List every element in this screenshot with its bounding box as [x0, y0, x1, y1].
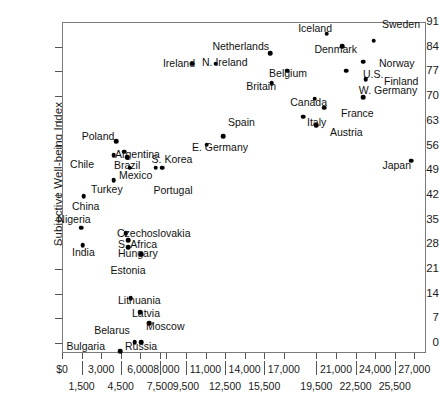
y-axis-tick-mark — [55, 269, 62, 270]
data-point-label: W. Germany — [359, 85, 417, 96]
plot-area: IcelandSwedenDenmarkNetherlandsNorwayN. … — [62, 22, 426, 353]
x-axis-tick-mark — [82, 353, 83, 359]
x-axis-label-separator — [225, 361, 226, 375]
x-axis-tick-label: 1,500 — [68, 381, 94, 392]
data-point[interactable] — [114, 139, 119, 144]
data-point-label: Moscow — [146, 321, 185, 332]
x-axis-tick-label: 27,000 — [398, 364, 430, 375]
data-point[interactable] — [118, 349, 123, 354]
data-point[interactable] — [82, 194, 87, 199]
data-point-label: Denmark — [314, 44, 357, 55]
x-axis-tick-label: $0 — [56, 364, 68, 375]
data-point-label: Mexico — [119, 170, 152, 181]
x-axis-tick-label: 24,000 — [359, 364, 391, 375]
x-axis-tick-mark — [414, 353, 415, 359]
x-axis-tick-mark — [375, 353, 376, 359]
data-point[interactable] — [221, 134, 226, 139]
data-point-label: Bulgaria — [66, 341, 105, 352]
x-axis-tick-label: 14,000 — [229, 364, 261, 375]
data-point-label: Chile — [70, 159, 94, 170]
x-axis-tick-mark — [316, 353, 317, 359]
data-point-label: Britain — [246, 81, 276, 92]
data-point[interactable] — [160, 165, 165, 170]
data-point-label: Portugal — [153, 185, 192, 196]
x-axis-tick-label: 21,000 — [320, 364, 352, 375]
y-axis-tick-mark — [55, 146, 62, 147]
y-axis-tick-mark — [55, 318, 62, 319]
data-point-label: Poland — [82, 131, 115, 142]
x-axis-tick-mark — [336, 353, 337, 359]
x-axis-label-separator — [82, 361, 83, 375]
data-point-label: Estonia — [110, 265, 145, 276]
y-axis-tick-mark — [55, 294, 62, 295]
data-point-label: Hungary — [118, 248, 158, 259]
scatter-plot-figure: Subjective Well-being Index 071421283542… — [0, 0, 439, 404]
data-point-label: Austria — [330, 127, 363, 138]
x-axis-tick-mark — [264, 353, 265, 359]
x-axis-label-separator — [121, 361, 122, 375]
x-axis-label-separator — [264, 361, 265, 375]
x-axis-tick-mark — [206, 353, 207, 359]
x-axis-label-separator — [186, 361, 187, 375]
data-point-label: Belgium — [269, 68, 307, 79]
x-axis-tick-label: 4,500 — [108, 381, 134, 392]
data-point[interactable] — [112, 178, 117, 183]
y-axis-tick-mark — [55, 244, 62, 245]
data-point[interactable] — [314, 123, 319, 128]
data-point[interactable] — [79, 225, 84, 230]
x-axis-tick-mark — [186, 353, 187, 359]
data-point-label: India — [72, 247, 95, 258]
data-point[interactable] — [344, 68, 349, 73]
data-point-label: Spain — [228, 117, 255, 128]
data-point-label: Netherlands — [212, 41, 269, 52]
x-axis-tick-label: 17,000 — [268, 364, 300, 375]
data-point-label: Lithuania — [118, 295, 161, 306]
data-point-label: E. Germany — [192, 142, 248, 153]
x-axis-label-separator — [160, 361, 161, 375]
y-axis-tick-mark — [55, 71, 62, 72]
data-point-label: France — [341, 108, 374, 119]
data-point-label: Czechoslovakia — [117, 228, 191, 239]
x-axis-tick-mark — [62, 353, 63, 359]
x-axis-tick-label: 3,000 — [88, 364, 114, 375]
data-point-label: Nigeria — [57, 214, 90, 225]
x-axis-label-separator — [316, 361, 317, 375]
data-point-label: Iceland — [298, 23, 332, 34]
y-axis-tick-mark — [55, 170, 62, 171]
data-point-label: China — [72, 201, 99, 212]
x-axis-tick-mark — [284, 353, 285, 359]
data-point[interactable] — [363, 77, 368, 82]
data-point-label: Turkey — [91, 184, 123, 195]
x-axis-tick-mark — [101, 353, 102, 359]
data-point[interactable] — [153, 165, 158, 170]
y-axis-tick-mark — [55, 121, 62, 122]
data-point-label: Norway — [379, 58, 415, 69]
x-axis-tick-mark — [160, 353, 161, 359]
x-axis-tick-label: 9,500 — [173, 381, 199, 392]
x-axis-tick-mark — [225, 353, 226, 359]
data-point-label: Russia — [125, 341, 157, 352]
x-axis-tick-label: 12,500 — [209, 381, 241, 392]
data-point[interactable] — [139, 252, 144, 257]
x-axis-tick-mark — [356, 353, 357, 359]
data-point[interactable] — [112, 153, 117, 158]
data-point[interactable] — [371, 38, 376, 43]
x-axis-tick-label: 7,500 — [147, 381, 173, 392]
x-axis-tick-mark — [395, 353, 396, 359]
data-point-label: Ireland — [163, 58, 195, 69]
data-point-label: Belarus — [94, 325, 130, 336]
y-axis-tick-mark — [55, 96, 62, 97]
x-axis-tick-label: 8,000 — [153, 364, 179, 375]
x-axis-tick-label: 15,500 — [248, 381, 280, 392]
x-axis-tick-label: 25,500 — [379, 381, 411, 392]
x-axis-label-separator — [356, 361, 357, 375]
x-axis-tick-mark — [140, 353, 141, 359]
x-axis-tick-label: 6,000 — [127, 364, 153, 375]
data-point[interactable] — [301, 114, 306, 119]
data-point[interactable] — [322, 105, 327, 110]
x-axis-tick-label: 22,500 — [339, 381, 371, 392]
data-point[interactable] — [361, 60, 366, 65]
data-point-label: Latvia — [132, 308, 160, 319]
y-axis-tick-mark — [55, 195, 62, 196]
x-axis-tick-label: 19,500 — [300, 381, 332, 392]
